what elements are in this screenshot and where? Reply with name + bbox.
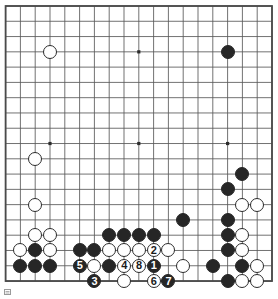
go-board-diagram: 25481367 bbox=[0, 0, 278, 299]
stone-white-c17r14[interactable] bbox=[235, 198, 249, 212]
stone-black-c6r17[interactable] bbox=[73, 243, 87, 257]
footer-mark-icon bbox=[4, 288, 18, 296]
stone-move-6[interactable]: 6 bbox=[147, 274, 161, 288]
stone-black-c15r18[interactable] bbox=[206, 259, 220, 273]
move-number-label: 5 bbox=[77, 260, 83, 271]
stone-white-c9r19[interactable] bbox=[117, 274, 131, 288]
stone-black-c16r19[interactable] bbox=[221, 274, 235, 288]
stone-move-8[interactable]: 8 bbox=[132, 259, 146, 273]
stone-black-c8r18[interactable] bbox=[102, 259, 116, 273]
stone-white-c18r14[interactable] bbox=[250, 198, 264, 212]
stone-white-c13r18[interactable] bbox=[176, 259, 190, 273]
stone-black-c3r18[interactable] bbox=[28, 259, 42, 273]
stone-black-c16r16[interactable] bbox=[221, 228, 235, 242]
stone-move-4[interactable]: 4 bbox=[117, 259, 131, 273]
stone-black-c10r16[interactable] bbox=[132, 228, 146, 242]
stone-black-c16r17[interactable] bbox=[221, 243, 235, 257]
move-number-label: 4 bbox=[121, 260, 127, 271]
move-number-label: 6 bbox=[151, 275, 157, 286]
stone-move-1[interactable]: 1 bbox=[147, 259, 161, 273]
stone-move-2[interactable]: 2 bbox=[147, 243, 161, 257]
stone-black-c16r13[interactable] bbox=[221, 182, 235, 196]
stone-white-c4r4[interactable] bbox=[43, 45, 57, 59]
move-number-label: 1 bbox=[151, 260, 157, 271]
stone-white-c3r14[interactable] bbox=[28, 198, 42, 212]
stone-black-c16r4[interactable] bbox=[221, 45, 235, 59]
stone-white-c18r18[interactable] bbox=[250, 259, 264, 273]
move-number-label: 2 bbox=[151, 244, 157, 255]
stone-black-c13r15[interactable] bbox=[176, 213, 190, 227]
stone-black-c4r18[interactable] bbox=[43, 259, 57, 273]
move-number-label: 7 bbox=[166, 275, 172, 286]
move-number-label: 8 bbox=[136, 260, 142, 271]
stone-black-c16r15[interactable] bbox=[221, 213, 235, 227]
stone-white-c3r11[interactable] bbox=[28, 152, 42, 166]
stone-move-5[interactable]: 5 bbox=[73, 259, 87, 273]
move-number-label: 3 bbox=[92, 275, 98, 286]
stone-black-c11r16[interactable] bbox=[147, 228, 161, 242]
